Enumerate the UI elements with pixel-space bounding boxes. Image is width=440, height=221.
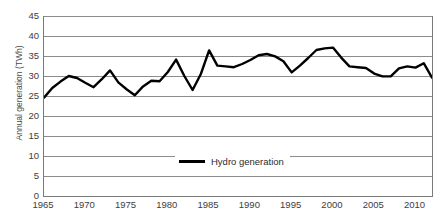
x-axis-tick-label: 1985 — [188, 199, 228, 210]
x-axis-tick-label: 1995 — [271, 199, 311, 210]
x-axis-tick-label: 1965 — [23, 199, 63, 210]
data-line — [44, 48, 432, 98]
x-axis-tick-label: 1975 — [106, 199, 146, 210]
x-axis-tick-label: 1990 — [229, 199, 269, 210]
y-axis-tick-label: 35 — [19, 51, 39, 61]
y-axis-tick-label: 5 — [19, 171, 39, 181]
x-axis-tick-labels: 1965197019751980198519901995200020052010 — [0, 199, 440, 213]
x-axis-tick-label: 1970 — [64, 199, 104, 210]
y-axis-tick-label: 20 — [19, 111, 39, 121]
x-axis-tick-label: 1980 — [147, 199, 187, 210]
y-axis-tick-labels: 051015202530354045 — [18, 0, 39, 221]
y-axis-tick-label: 25 — [19, 91, 39, 101]
y-axis-tick-label: 10 — [19, 151, 39, 161]
legend-line-swatch — [179, 160, 205, 163]
x-axis-tick-label: 2010 — [394, 199, 434, 210]
y-axis-tick-label: 15 — [19, 131, 39, 141]
chart-legend: Hydro generation — [175, 150, 290, 172]
y-axis-tick-label: 40 — [19, 31, 39, 41]
x-axis-tick-label: 2005 — [353, 199, 393, 210]
data-series-group — [44, 48, 432, 98]
x-axis-tick-label: 2000 — [312, 199, 352, 210]
y-axis-tick-label: 30 — [19, 71, 39, 81]
hydro-generation-line-chart: Annual generation (TWh) 0510152025303540… — [0, 0, 440, 221]
legend-label: Hydro generation — [211, 156, 284, 167]
y-axis-tick-label: 45 — [19, 11, 39, 21]
